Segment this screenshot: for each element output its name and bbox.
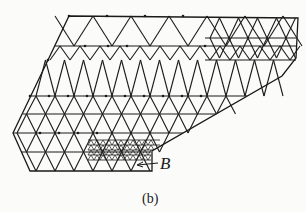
finite-element-mesh: [0, 0, 306, 212]
label-B: B: [160, 154, 170, 174]
figure-caption: (b): [142, 191, 158, 207]
